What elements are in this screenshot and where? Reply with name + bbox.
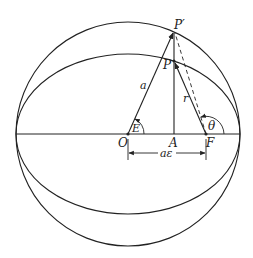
label-a: a [140, 79, 147, 92]
label-f: F [205, 136, 215, 150]
label-p-prime: P′ [173, 18, 185, 32]
label-p: P [162, 58, 172, 72]
label-o: O [118, 136, 128, 150]
ellipse-anomaly-diagram: P′ P a r E θ O A F aε [0, 0, 253, 258]
label-e: E [131, 122, 140, 135]
line-f-pprime-dashed [175, 33, 206, 134]
label-theta: θ [208, 119, 216, 133]
label-a-epsilon: aε [160, 147, 173, 160]
line-o-pprime [128, 33, 173, 134]
label-r: r [183, 92, 189, 105]
point-p [173, 60, 176, 63]
